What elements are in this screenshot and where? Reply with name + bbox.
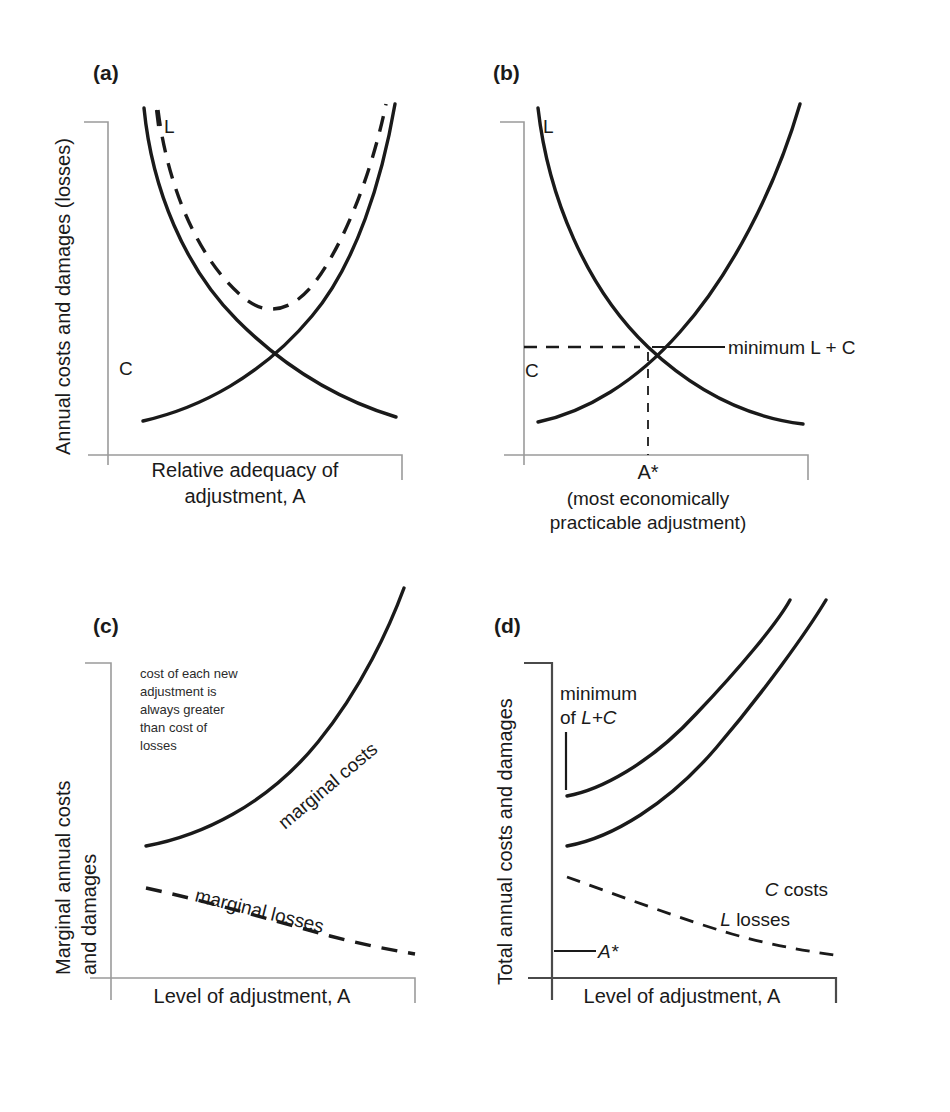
panel-b-annotation-minimum: minimum L + C: [728, 337, 856, 358]
panel-d-label-c-costs-plain: costs: [778, 879, 828, 900]
panel-d-label-l-losses: L losses: [720, 909, 790, 930]
panel-c-y-axis-label-line2: and damages: [78, 854, 100, 975]
panel-a-tag: (a): [93, 61, 119, 84]
figure-canvas: (a) Annual costs and damages (losses) L …: [0, 0, 950, 1112]
panel-d-label-c-costs: C costs: [765, 879, 828, 900]
panel-b-x-axis-label-line1: (most economically: [567, 488, 730, 509]
panel-a-x-axis-label-line1: Relative adequacy of: [152, 459, 339, 481]
panel-c-note-line-4: than cost of: [140, 720, 208, 735]
panel-c-y-axis-label-line1: Marginal annual costs: [52, 780, 74, 975]
panel-d-y-axis-label: Total annual costs and damages: [494, 698, 516, 985]
panel-a-y-axis: [84, 122, 108, 465]
panel-d-x-axis-label: Level of adjustment, A: [584, 985, 781, 1007]
panel-d-y-axis: [524, 663, 552, 1000]
panel-a-curve-sum-dashed: [158, 104, 386, 309]
panel-d-annotation-min-of: of: [560, 707, 581, 728]
panel-c-label-marginal-costs: marginal costs: [274, 738, 381, 833]
panel-b-curve-C: [538, 104, 800, 422]
panel-a-y-axis-label: Annual costs and damages (losses): [52, 138, 74, 455]
panel-c-note-line-3: always greater: [140, 702, 225, 717]
panel-d-label-astar: A*: [597, 941, 619, 962]
panel-b-tag: (b): [493, 61, 520, 84]
panel-c-curve-marginal-costs: [146, 588, 404, 846]
panel-d-label-c-costs-ital: C: [765, 879, 779, 900]
panel-a: (a) Annual costs and damages (losses) L …: [52, 61, 402, 507]
panel-d-label-l-losses-ital: L: [720, 909, 731, 930]
panel-b-label-C: C: [525, 360, 539, 381]
panel-c-note-line-5: losses: [140, 738, 177, 753]
panel-b-curve-L: [538, 108, 803, 424]
panel-d-annotation-min-lc: L+C: [581, 707, 617, 728]
panel-c-note-line-1: cost of each new: [140, 666, 238, 681]
four-panel-figure: (a) Annual costs and damages (losses) L …: [0, 0, 950, 1112]
panel-a-label-C: C: [119, 358, 133, 379]
panel-c-label-marginal-losses: marginal losses: [193, 885, 326, 937]
panel-b-label-L: L: [543, 116, 554, 137]
panel-b-x-axis-astar: A*: [637, 461, 658, 483]
panel-c: (c) Marginal annual costs and damages co…: [52, 588, 415, 1007]
panel-d-annotation-min-line1: minimum: [560, 683, 637, 704]
panel-a-x-axis-label-line2: adjustment, A: [184, 485, 306, 507]
panel-d-annotation-min-line2: of L+C: [560, 707, 617, 728]
panel-d-label-l-losses-plain: losses: [731, 909, 790, 930]
panel-a-curve-C: [143, 104, 395, 421]
panel-a-curve-L: [144, 108, 396, 417]
panel-c-note-line-2: adjustment is: [140, 684, 217, 699]
panel-b: (b) L C minimum L + C A* (most economica…: [493, 61, 856, 533]
panel-c-x-axis-label: Level of adjustment, A: [154, 985, 351, 1007]
panel-d: (d) Total annual costs and damages minim…: [494, 600, 836, 1007]
panel-b-y-axis: [500, 122, 524, 465]
panel-c-tag: (c): [93, 614, 119, 637]
panel-d-tag: (d): [494, 614, 521, 637]
panel-a-label-L: L: [164, 116, 175, 137]
panel-b-x-axis-label-line2: practicable adjustment): [550, 512, 746, 533]
